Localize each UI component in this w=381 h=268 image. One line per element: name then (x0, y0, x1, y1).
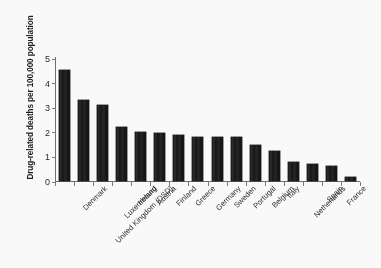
y-axis-tick-label: 1 (37, 152, 50, 162)
y-axis-tick-mark (52, 59, 56, 60)
plot-area: 012345 (55, 57, 360, 182)
bar (154, 133, 165, 181)
y-axis-tick: 2 (37, 128, 61, 138)
bar (192, 137, 203, 182)
chart-figure: Drug-related deaths per 100,000 populati… (0, 0, 381, 268)
bar (78, 100, 89, 181)
x-axis-labels: DenmarkUnited Kingdom (DSD)LuxembourgIre… (55, 184, 360, 268)
bar (116, 127, 127, 181)
x-axis-category-label: Greece (193, 184, 217, 208)
bar (59, 70, 70, 181)
y-axis-tick: 1 (37, 152, 61, 162)
y-axis-tick-mark (52, 132, 56, 133)
bar (307, 164, 318, 181)
y-axis-tick: 3 (37, 103, 61, 113)
y-axis-tick-label: 4 (37, 79, 50, 89)
y-axis-tick-label: 0 (37, 177, 50, 187)
bar (345, 177, 356, 181)
x-axis-category-label: France (345, 184, 368, 207)
y-axis-tick-mark (52, 108, 56, 109)
bar (250, 145, 261, 181)
y-axis-tick-label: 2 (37, 128, 50, 138)
bar (173, 135, 184, 181)
y-axis-tick-label: 3 (37, 103, 50, 113)
bar (326, 166, 337, 181)
x-axis-category-label: Finland (174, 184, 198, 208)
x-axis-category-label: Austria (155, 184, 178, 207)
bar (97, 105, 108, 181)
bar (288, 162, 299, 181)
x-axis-category-label: Denmark (81, 184, 109, 212)
bar (212, 137, 223, 182)
y-axis-tick: 4 (37, 79, 61, 89)
y-axis-tick-mark (52, 83, 56, 84)
bar (231, 137, 242, 182)
bar (269, 151, 280, 181)
bar (135, 132, 146, 181)
y-axis-line (55, 57, 56, 182)
y-axis-tick: 5 (37, 54, 61, 64)
y-axis-tick-label: 5 (37, 54, 50, 64)
y-axis-tick-mark (52, 157, 56, 158)
